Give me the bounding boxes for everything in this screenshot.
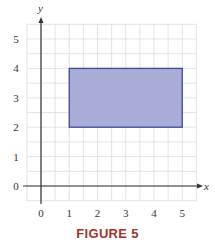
- x-tick-label: 2: [95, 207, 101, 219]
- x-tick-labels: 012345: [38, 207, 185, 219]
- y-axis-arrow-icon: [39, 17, 44, 23]
- x-axis-arrow-icon: [197, 184, 203, 189]
- figure-caption: FIGURE 5: [0, 226, 215, 241]
- x-tick-label: 0: [38, 207, 44, 219]
- shaded-rectangle-region: [69, 68, 182, 127]
- y-tick-label: 1: [13, 151, 19, 163]
- x-tick-label: 3: [123, 207, 129, 219]
- x-tick-label: 4: [151, 207, 157, 219]
- x-tick-label: 5: [180, 207, 186, 219]
- x-axis-label: x: [203, 180, 209, 192]
- y-tick-label: 2: [13, 121, 19, 133]
- figure-plot: x y 012345 012345: [0, 0, 215, 245]
- y-tick-label: 0: [13, 180, 19, 192]
- y-tick-label: 3: [13, 92, 19, 104]
- y-axis-label: y: [37, 2, 43, 14]
- x-tick-label: 1: [67, 207, 73, 219]
- y-tick-label: 5: [13, 33, 19, 45]
- y-tick-label: 4: [13, 62, 19, 74]
- y-tick-labels: 012345: [13, 33, 19, 192]
